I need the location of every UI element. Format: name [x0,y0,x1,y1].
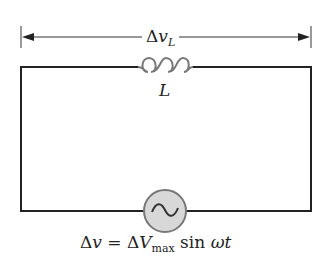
delta-symbol: Δ [146,26,158,46]
eq-lhs-var: v [92,232,102,252]
eq-rhs-var: V [139,232,151,252]
left-arrowhead-icon [22,33,34,41]
eq-arg: ωt [211,232,232,252]
eq-rhs-sub: max [152,242,175,255]
circuit-diagram: ΔvL L Δv = ΔVmax sin ωt [0,0,332,271]
wire-left [21,67,144,211]
voltage-drop-label: ΔvL [142,26,179,49]
voltage-subscript: L [168,36,175,49]
wire-right [186,67,311,211]
eq-func: sin [175,232,211,252]
voltage-symbol: v [158,26,168,46]
inductor-coil-icon [138,58,193,72]
eq-delta: Δ [80,232,92,252]
right-arrowhead-icon [298,33,310,41]
eq-rhs-delta: Δ [127,232,139,252]
eq-equals: = [102,232,127,252]
inductor-label: L [159,80,170,100]
source-equation: Δv = ΔVmax sin ωt [80,232,231,255]
